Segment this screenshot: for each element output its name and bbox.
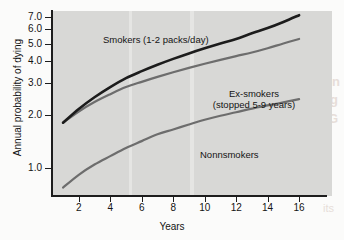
series-label-exsmokers-line1: Ex-smokers [229, 88, 279, 99]
series-label-exsmokers: Ex-smokers (stopped 5-9 years) [198, 88, 310, 110]
series-label-exsmokers-line2: (stopped 5-9 years) [198, 99, 310, 110]
series-line-nonsmokers [63, 99, 299, 187]
y-axis-title: Annual probability of dying [12, 18, 23, 178]
chart-figure: Cessation oking MOKING its 1.02.03.04.05… [0, 0, 344, 240]
series-line-exsmokers [63, 39, 299, 123]
x-axis-title: Years [0, 221, 344, 232]
series-label-smokers: Smokers (1-2 packs/day) [103, 34, 209, 45]
series-label-nonsmokers: Nonnsmokers [200, 149, 259, 160]
